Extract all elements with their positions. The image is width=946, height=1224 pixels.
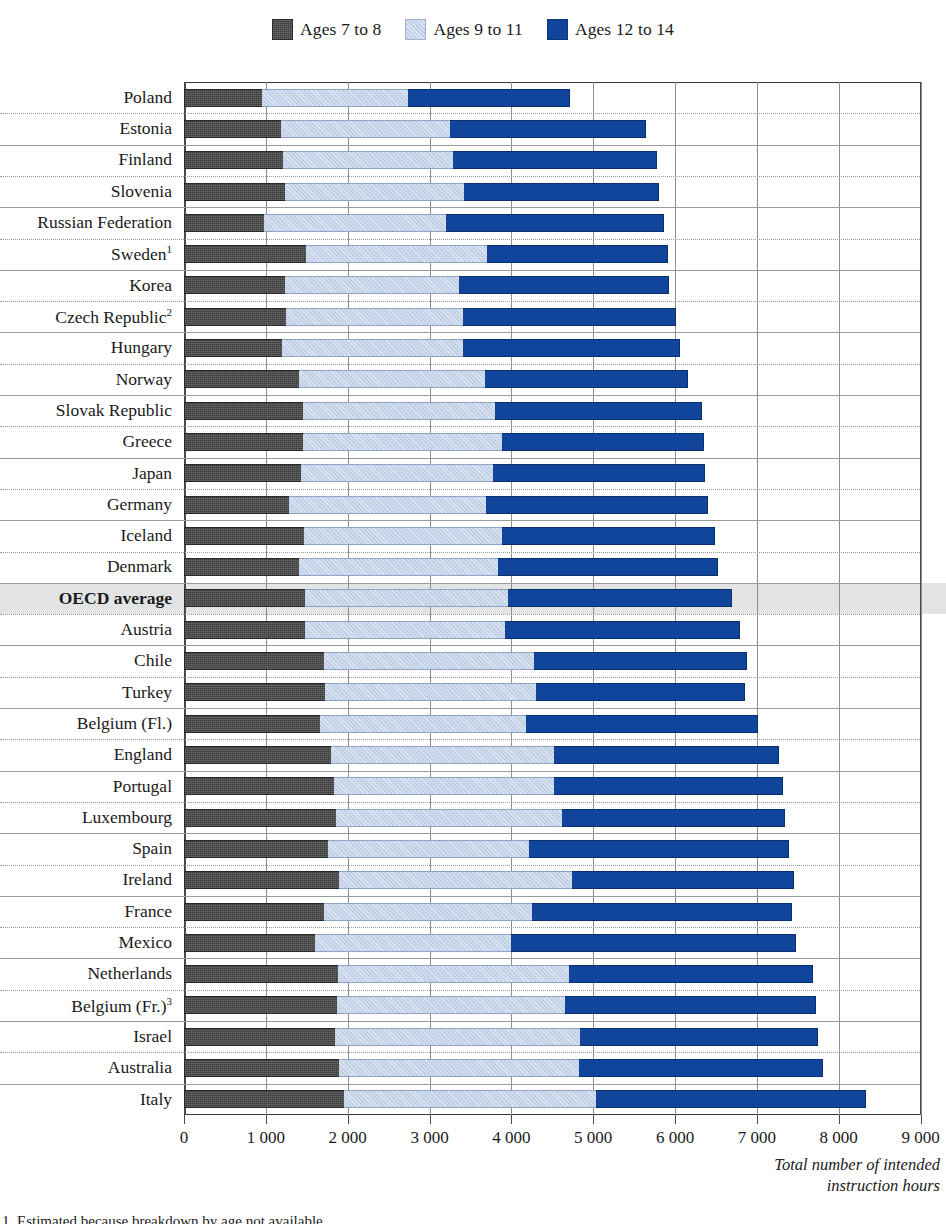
square-swatch-dark-icon (272, 19, 293, 40)
bar-segment-ages-9-to-11 (303, 402, 496, 420)
stacked-bar (184, 683, 745, 701)
category-label: Turkey (0, 684, 172, 702)
category-label: OECD average (0, 590, 172, 608)
bar-segment-ages-7-to-8 (184, 683, 325, 701)
bar-segment-ages-12-to-14 (495, 402, 702, 420)
bar-segment-ages-12-to-14 (450, 120, 646, 138)
bar-segment-ages-12-to-14 (580, 1028, 818, 1046)
category-label: Ireland (0, 871, 172, 889)
stacked-bar (184, 339, 680, 357)
chart-row: Ireland (0, 865, 946, 896)
bar-segment-ages-9-to-11 (285, 183, 464, 201)
bar-segment-ages-7-to-8 (184, 996, 337, 1014)
bar-segment-ages-9-to-11 (334, 777, 554, 795)
category-label: Chile (0, 652, 172, 670)
bar-segment-ages-9-to-11 (324, 652, 533, 670)
category-label: Luxembourg (0, 809, 172, 827)
category-label: Austria (0, 621, 172, 639)
x-axis-tick-label: 4 000 (492, 1128, 530, 1148)
bar-segment-ages-12-to-14 (502, 433, 704, 451)
chart-row: Poland (0, 82, 946, 113)
category-label: Portugal (0, 778, 172, 796)
chart-row: Slovenia (0, 176, 946, 207)
bar-segment-ages-12-to-14 (446, 214, 664, 232)
bar-segment-ages-12-to-14 (493, 464, 705, 482)
bar-segment-ages-9-to-11 (331, 746, 554, 764)
category-label: Sweden1 (0, 244, 172, 263)
x-axis-tick (184, 1115, 185, 1124)
chart-row: Mexico (0, 927, 946, 958)
stacked-bar (184, 183, 659, 201)
stacked-bar (184, 151, 657, 169)
chart-rows: PolandEstoniaFinlandSloveniaRussian Fede… (0, 82, 946, 1115)
chart-row: Chile (0, 645, 946, 676)
bar-segment-ages-12-to-14 (487, 245, 668, 263)
chart-row: Sweden1 (0, 239, 946, 270)
bar-segment-ages-12-to-14 (505, 621, 740, 639)
bar-segment-ages-9-to-11 (264, 214, 446, 232)
chart-row: Luxembourg (0, 802, 946, 833)
stacked-bar (184, 558, 718, 576)
x-axis-tick (430, 1115, 431, 1124)
chart-row: Denmark (0, 552, 946, 583)
bar-segment-ages-12-to-14 (572, 871, 794, 889)
bar-segment-ages-7-to-8 (184, 809, 336, 827)
chart-row: Iceland (0, 520, 946, 551)
chart-row: OECD average (0, 583, 946, 614)
x-axis-tick (348, 1115, 349, 1124)
bar-segment-ages-12-to-14 (485, 370, 688, 388)
bar-segment-ages-7-to-8 (184, 245, 306, 263)
bar-segment-ages-12-to-14 (554, 746, 779, 764)
chart-row: Slovak Republic (0, 395, 946, 426)
category-label: Mexico (0, 934, 172, 952)
chart-row: Australia (0, 1052, 946, 1083)
x-axis-title: Total number of intended instruction hou… (540, 1155, 940, 1196)
x-axis-tick (757, 1115, 758, 1124)
bar-segment-ages-9-to-11 (328, 840, 528, 858)
bar-segment-ages-9-to-11 (282, 339, 463, 357)
x-axis-tick-label: 1 000 (247, 1128, 285, 1148)
stacked-bar (184, 527, 715, 545)
chart-row: Turkey (0, 677, 946, 708)
bar-segment-ages-9-to-11 (286, 308, 463, 326)
category-label: Hungary (0, 339, 172, 357)
category-label: Estonia (0, 120, 172, 138)
category-label: France (0, 903, 172, 921)
chart-row: Norway (0, 364, 946, 395)
footnote-marker: 1 (167, 243, 173, 255)
stacked-bar (184, 965, 813, 983)
bar-segment-ages-7-to-8 (184, 370, 299, 388)
bar-segment-ages-7-to-8 (184, 871, 339, 889)
category-label: Russian Federation (0, 214, 172, 232)
legend-label: Ages 7 to 8 (300, 19, 381, 40)
chart-row: Belgium (Fl.) (0, 708, 946, 739)
bar-segment-ages-7-to-8 (184, 715, 320, 733)
bar-segment-ages-7-to-8 (184, 151, 283, 169)
legend-item-ages-12-14: Ages 12 to 14 (547, 19, 674, 40)
stacked-bar (184, 370, 688, 388)
bar-segment-ages-9-to-11 (306, 245, 487, 263)
bar-segment-ages-12-to-14 (459, 276, 669, 294)
stacked-bar (184, 777, 783, 795)
stacked-bar (184, 652, 747, 670)
category-label: Belgium (Fr.)3 (0, 996, 172, 1015)
stacked-bar (184, 589, 732, 607)
bar-segment-ages-9-to-11 (320, 715, 526, 733)
x-axis-tick (511, 1115, 512, 1124)
category-label: Korea (0, 277, 172, 295)
stacked-bar (184, 840, 789, 858)
x-axis-tick-label: 9 000 (901, 1128, 939, 1148)
legend-label: Ages 9 to 11 (433, 19, 523, 40)
category-label: Italy (0, 1091, 172, 1109)
category-label: Australia (0, 1059, 172, 1077)
bar-segment-ages-9-to-11 (335, 1028, 581, 1046)
bar-segment-ages-12-to-14 (508, 589, 732, 607)
bar-segment-ages-7-to-8 (184, 621, 305, 639)
category-label: Netherlands (0, 965, 172, 983)
bar-segment-ages-12-to-14 (562, 809, 785, 827)
stacked-bar (184, 809, 785, 827)
category-label: Iceland (0, 527, 172, 545)
x-axis-tick (921, 1115, 922, 1124)
category-label: Israel (0, 1028, 172, 1046)
bar-segment-ages-12-to-14 (511, 934, 796, 952)
